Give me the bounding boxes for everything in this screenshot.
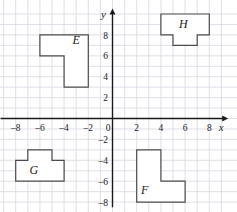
y-tick-label: 8: [103, 31, 108, 41]
shape-g: [16, 150, 64, 181]
y-tick-label: –6: [98, 177, 109, 187]
y-axis-label: y: [100, 8, 106, 20]
y-axis-arrowhead: [110, 8, 116, 14]
x-tick-label: –6: [34, 123, 45, 133]
shape-e: [40, 35, 88, 87]
y-tick-label: –8: [98, 198, 109, 208]
x-tick-label: –2: [83, 123, 94, 133]
shape-label-f: F: [140, 183, 149, 197]
x-axis-label: x: [218, 121, 224, 133]
x-tick-label: –4: [58, 123, 69, 133]
x-tick-label: 4: [159, 123, 164, 133]
y-tick-label: 2: [103, 93, 108, 103]
shape-label-h: H: [178, 17, 189, 31]
x-tick-label: –8: [10, 123, 21, 133]
origin-label: 0: [106, 123, 111, 133]
shape-label-g: G: [30, 163, 39, 177]
coordinate-plane-figure: –8–6–4–2024688642–2–4–6–8xyEHGF: [0, 0, 237, 212]
shape-label-e: E: [72, 33, 81, 47]
y-tick-label: 4: [103, 72, 108, 82]
x-tick-label: 6: [183, 123, 188, 133]
y-tick-label: –2: [98, 135, 109, 145]
coordinate-plane-svg: –8–6–4–2024688642–2–4–6–8xyEHGF: [0, 0, 237, 212]
x-tick-label: 8: [207, 123, 212, 133]
y-tick-label: 6: [103, 51, 108, 61]
y-tick-label: –4: [98, 156, 109, 166]
x-tick-label: 2: [134, 123, 139, 133]
